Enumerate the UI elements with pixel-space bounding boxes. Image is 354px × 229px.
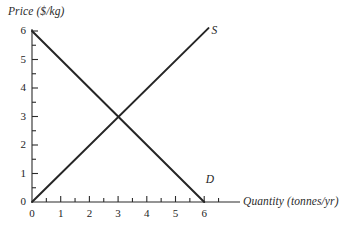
tick-marks [32, 31, 219, 202]
curves [32, 28, 209, 202]
y-tick-label: 3 [12, 110, 26, 122]
x-tick-label: 6 [196, 207, 212, 219]
y-tick-label: 0 [12, 195, 26, 207]
x-tick-label: 3 [110, 207, 126, 219]
supply-curve [32, 28, 209, 202]
supply-curve-label: S [211, 24, 217, 36]
x-tick-label: 0 [24, 207, 40, 219]
x-tick-label: 1 [53, 207, 69, 219]
y-tick-label: 6 [12, 24, 26, 36]
demand-curve-label: D [206, 173, 214, 185]
x-tick-label: 2 [81, 207, 97, 219]
y-tick-label: 5 [12, 53, 26, 65]
plot-area [0, 0, 354, 229]
x-tick-label: 4 [139, 207, 155, 219]
supply-demand-chart: Price ($/kg) Quantity (tonnes/yr) 012345… [0, 0, 354, 229]
y-tick-label: 1 [12, 167, 26, 179]
y-tick-label: 2 [12, 138, 26, 150]
y-tick-label: 4 [12, 81, 26, 93]
x-tick-label: 5 [168, 207, 184, 219]
